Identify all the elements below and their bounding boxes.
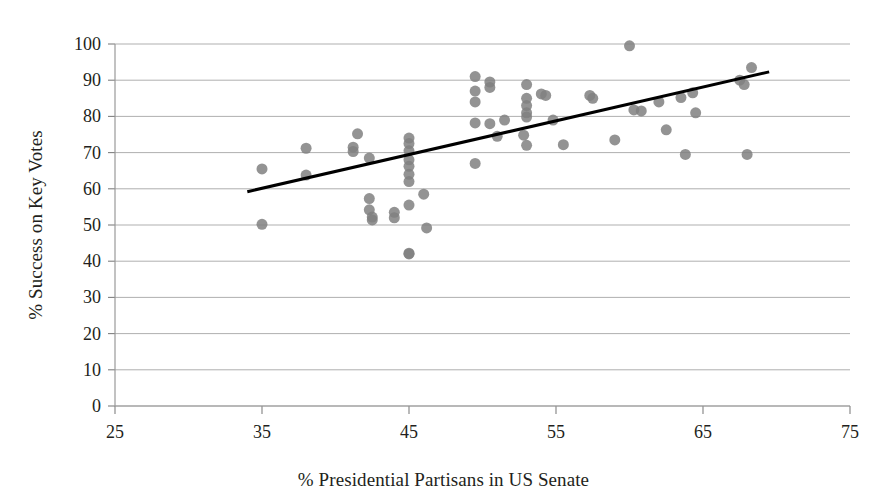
data-point xyxy=(257,163,268,174)
data-point xyxy=(470,117,481,128)
y-tick-label: 20 xyxy=(83,324,101,344)
gridlines xyxy=(115,44,850,406)
y-tick-label: 80 xyxy=(83,106,101,126)
data-point xyxy=(636,105,647,116)
data-point xyxy=(404,248,415,259)
x-tick-label: 65 xyxy=(694,422,712,442)
x-axis-tick-labels: 253545556575 xyxy=(106,422,859,442)
data-point xyxy=(470,96,481,107)
data-point xyxy=(499,115,510,126)
x-tick-label: 55 xyxy=(547,422,565,442)
data-point xyxy=(558,139,569,150)
data-point xyxy=(690,107,701,118)
data-point xyxy=(521,140,532,151)
data-point xyxy=(367,214,378,225)
x-axis-ticks xyxy=(115,406,850,414)
data-point xyxy=(404,200,415,211)
data-point xyxy=(742,149,753,160)
data-point xyxy=(364,193,375,204)
y-tick-label: 0 xyxy=(92,396,101,416)
y-axis-ticks xyxy=(108,44,115,406)
data-point xyxy=(587,93,598,104)
data-point xyxy=(624,40,635,51)
data-point xyxy=(470,71,481,82)
data-point xyxy=(484,118,495,129)
data-point xyxy=(404,176,415,187)
data-point xyxy=(680,149,691,160)
y-tick-label: 50 xyxy=(83,215,101,235)
data-point xyxy=(418,189,429,200)
data-point xyxy=(609,134,620,145)
y-tick-label: 40 xyxy=(83,251,101,271)
data-point xyxy=(257,219,268,230)
y-tick-label: 10 xyxy=(83,360,101,380)
data-point xyxy=(348,146,359,157)
data-point xyxy=(521,79,532,90)
x-tick-label: 35 xyxy=(253,422,271,442)
data-point xyxy=(484,82,495,93)
scatter-chart-figure: 0102030405060708090100 253545556575 % Pr… xyxy=(0,0,887,499)
y-axis-title: % Success on Key Votes xyxy=(25,55,47,395)
data-point xyxy=(352,128,363,139)
y-axis-tick-labels: 0102030405060708090100 xyxy=(74,34,101,416)
trendline xyxy=(247,72,769,192)
x-tick-label: 25 xyxy=(106,422,124,442)
y-tick-label: 100 xyxy=(74,34,101,54)
y-tick-label: 90 xyxy=(83,70,101,90)
y-tick-label: 30 xyxy=(83,287,101,307)
data-point xyxy=(470,86,481,97)
data-points xyxy=(257,40,758,259)
data-point xyxy=(421,222,432,233)
data-point xyxy=(518,130,529,141)
plot-area: 0102030405060708090100 253545556575 xyxy=(0,0,887,499)
y-tick-label: 60 xyxy=(83,179,101,199)
data-point xyxy=(301,143,312,154)
data-point xyxy=(470,158,481,169)
data-point xyxy=(746,62,757,73)
x-tick-label: 45 xyxy=(400,422,418,442)
x-tick-label: 75 xyxy=(841,422,859,442)
data-point xyxy=(540,90,551,101)
y-tick-label: 70 xyxy=(83,143,101,163)
x-axis-title: % Presidential Partisans in US Senate xyxy=(0,469,887,491)
data-point xyxy=(389,212,400,223)
data-point xyxy=(739,79,750,90)
data-point xyxy=(521,112,532,123)
data-point xyxy=(661,124,672,135)
